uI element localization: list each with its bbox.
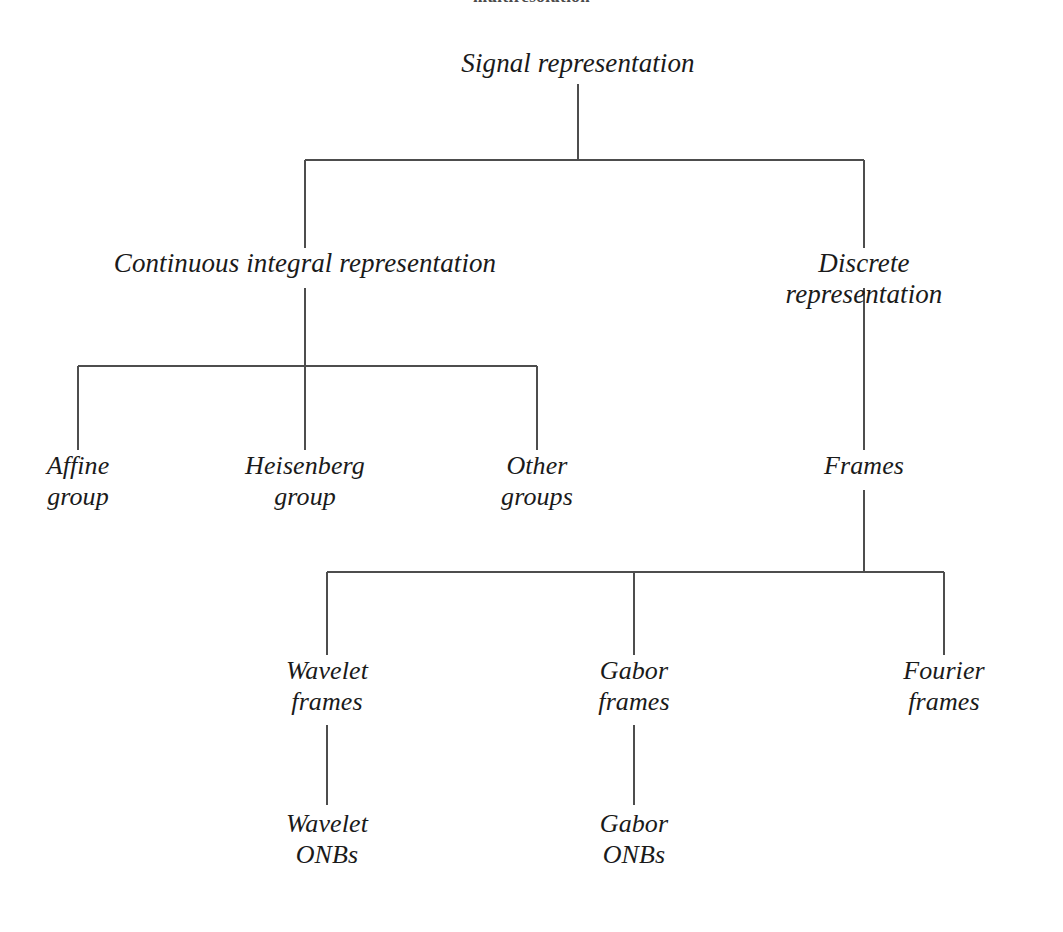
node-discrete-representation: Discrete representation xyxy=(765,248,964,310)
node-label-line-2: ONBs xyxy=(286,839,368,870)
node-label-line-1: Signal representation xyxy=(461,48,694,79)
node-label-line-1: Wavelet xyxy=(286,808,368,839)
node-fourier-frames: Fourierframes xyxy=(903,655,985,717)
node-heisenberg-group: Heisenberggroup xyxy=(245,450,365,512)
node-label-line-2: group xyxy=(47,481,110,512)
node-frames: Frames xyxy=(824,450,904,481)
node-label-line-1: Affine xyxy=(47,450,110,481)
node-gabor-onbs: GaborONBs xyxy=(600,808,668,870)
node-label-line-2: frames xyxy=(598,686,669,717)
node-label-line-1: Wavelet xyxy=(286,655,368,686)
node-label-line-2: groups xyxy=(501,481,573,512)
node-label-line-2: ONBs xyxy=(600,839,668,870)
node-wavelet-frames: Waveletframes xyxy=(286,655,368,717)
node-label-line-1: Fourier xyxy=(903,655,985,686)
node-label-line-1: Discrete representation xyxy=(765,248,964,310)
node-label-line-1: Frames xyxy=(824,450,904,481)
node-wavelet-onbs: WaveletONBs xyxy=(286,808,368,870)
node-label-line-1: Heisenberg xyxy=(245,450,365,481)
node-label-line-2: group xyxy=(245,481,365,512)
node-label-line-1: Gabor xyxy=(600,808,668,839)
node-signal-representation: Signal representation xyxy=(461,48,694,79)
node-other-groups: Othergroups xyxy=(501,450,573,512)
node-affine-group: Affinegroup xyxy=(47,450,110,512)
node-gabor-frames: Gaborframes xyxy=(598,655,669,717)
signal-representation-tree-diagram: multiresolution Signal representation xyxy=(0,0,1063,932)
node-label-line-1: Other xyxy=(501,450,573,481)
node-label-line-1: Continuous integral representation xyxy=(114,248,496,279)
node-continuous-integral: Continuous integral representation xyxy=(114,248,496,279)
node-label-line-2: frames xyxy=(286,686,368,717)
node-label-line-2: frames xyxy=(903,686,985,717)
node-label-line-1: Gabor xyxy=(598,655,669,686)
